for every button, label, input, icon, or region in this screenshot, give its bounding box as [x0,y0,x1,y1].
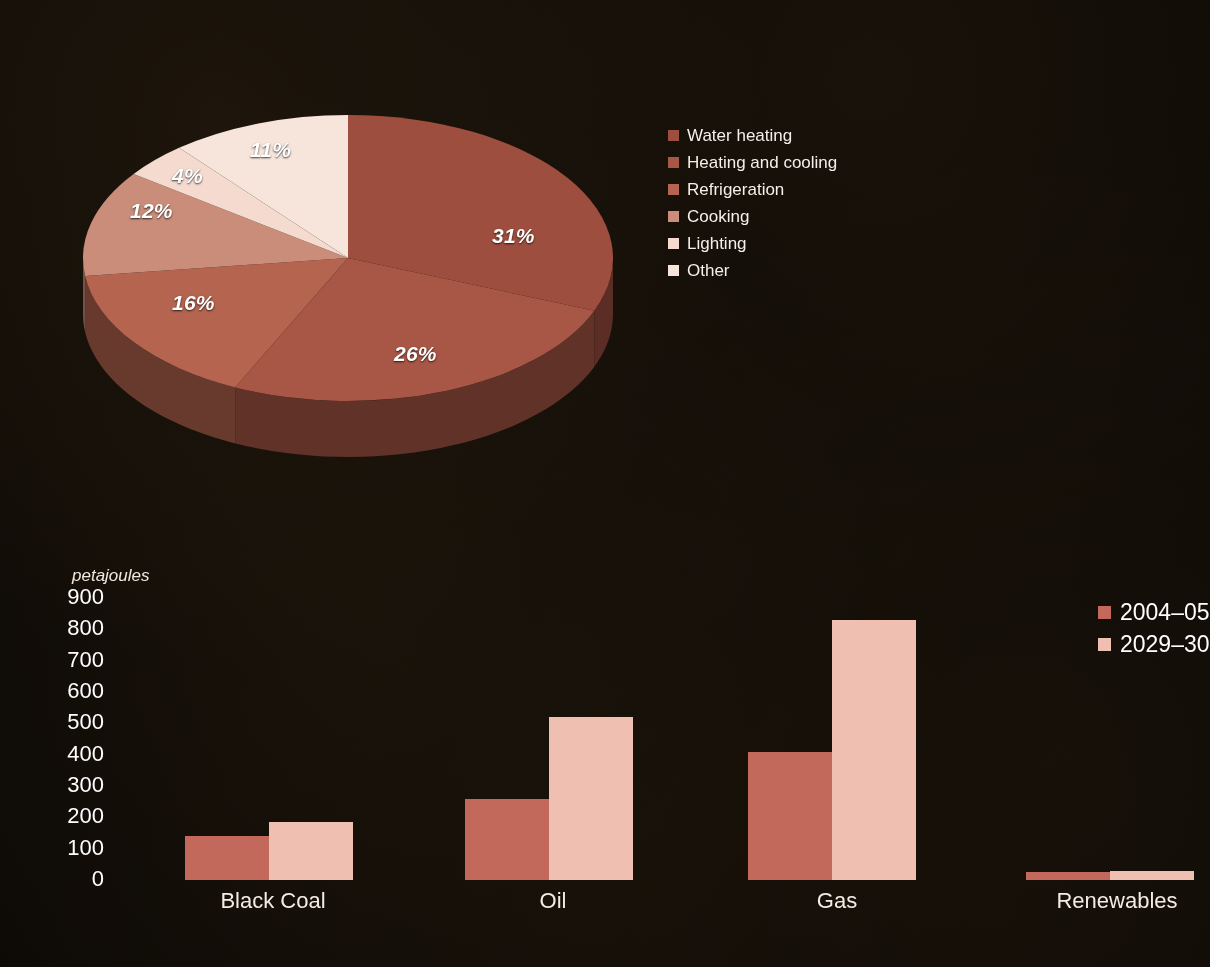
legend-swatch-icon [668,130,679,141]
pie-slice-value-label: 31% [492,224,535,248]
legend-swatch-icon [668,238,679,249]
bar-legend-item[interactable]: 2004–05 [1098,596,1210,628]
pie-legend-item[interactable]: Refrigeration [668,176,837,203]
energy-use-pie-chart: 31%26%16%12%4%11% [0,0,700,500]
pie-slice-value-label: 11% [250,138,291,162]
y-axis-unit-label: petajoules [72,566,150,586]
y-axis-tick-label: 500 [36,711,104,733]
pie-legend-label: Cooking [687,208,749,225]
bar-group [465,717,633,880]
bar-2004-05 [185,836,269,880]
bar-2029-30 [269,822,353,880]
bar-2004-05 [1026,872,1110,880]
bar-legend: 2004–052029–30 [1098,596,1210,660]
bar-legend-item[interactable]: 2029–30 [1098,628,1210,660]
bar-plot-area [140,598,1210,880]
legend-swatch-icon [668,211,679,222]
bar-group [1026,871,1194,880]
pie-legend-label: Water heating [687,127,792,144]
pie-legend: Water heatingHeating and coolingRefriger… [668,122,837,284]
y-axis-tick-label: 100 [36,837,104,859]
x-axis-category-label: Gas [752,888,922,914]
y-axis-tick-label: 400 [36,743,104,765]
pie-slice-value-label: 16% [172,291,215,315]
pie-legend-label: Lighting [687,235,747,252]
legend-swatch-icon [1098,606,1111,619]
y-axis-tick-label: 700 [36,649,104,671]
bar-2029-30 [1110,871,1194,880]
y-axis-tick-label: 800 [36,617,104,639]
bar-2004-05 [465,799,549,880]
y-axis-tick-label: 200 [36,805,104,827]
pie-slice-value-label: 26% [394,342,437,366]
x-axis-category-label: Black Coal [188,888,358,914]
pie-svg [0,0,700,500]
y-axis-tick-label: 600 [36,680,104,702]
pie-legend-item[interactable]: Heating and cooling [668,149,837,176]
pie-slice-value-label: 12% [130,199,173,223]
x-axis-category-label: Renewables [1028,888,1206,914]
pie-legend-item[interactable]: Lighting [668,230,837,257]
legend-swatch-icon [668,184,679,195]
pie-legend-label: Other [687,262,730,279]
pie-legend-label: Heating and cooling [687,154,837,171]
pie-legend-item[interactable]: Cooking [668,203,837,230]
bar-2029-30 [832,620,916,880]
legend-swatch-icon [668,265,679,276]
bar-legend-label: 2029–30 [1120,633,1210,656]
bar-group [748,620,916,880]
pie-legend-item[interactable]: Other [668,257,837,284]
pie-legend-item[interactable]: Water heating [668,122,837,149]
pie-legend-label: Refrigeration [687,181,784,198]
bar-2029-30 [549,717,633,880]
y-axis-tick-label: 900 [36,586,104,608]
bar-group [185,822,353,880]
legend-swatch-icon [668,157,679,168]
y-axis-tick-label: 0 [36,868,104,890]
legend-swatch-icon [1098,638,1111,651]
bar-legend-label: 2004–05 [1120,601,1210,624]
y-axis-tick-label: 300 [36,774,104,796]
bar-2004-05 [748,752,832,880]
pie-slice-value-label: 4% [172,164,203,188]
x-axis-category-label: Oil [468,888,638,914]
